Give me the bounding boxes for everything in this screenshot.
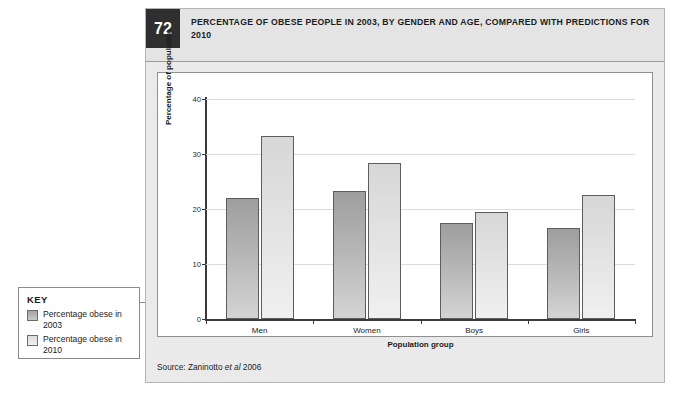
chart-plot-box: Percentage of population 010203040 Popul… [157,72,653,337]
key-title: KEY [27,294,132,305]
bar-men-2010 [261,136,294,319]
gridline [206,99,635,100]
x-category-label-men: Men [252,326,268,335]
y-tick-mark [202,99,206,100]
x-tick-mark [528,319,529,324]
bar-women-2010 [368,163,401,319]
x-tick-mark [421,319,422,324]
y-tick-label: 10 [193,260,201,269]
key-item-2010: Percentage obese in 2010 [27,334,132,356]
figure-number-badge: 72 [146,9,180,48]
bar-boys-2003 [440,223,473,319]
x-category-label-girls: Girls [573,326,589,335]
plot-area: 010203040 [206,99,635,319]
source-note: Source: Zaninotto et al 2006 [157,362,261,372]
source-suffix: 2006 [241,362,262,372]
x-category-label-boys: Boys [465,326,483,335]
x-axis-title: Population group [206,340,635,349]
y-tick-mark [202,154,206,155]
source-italic: et al [225,362,241,372]
figure-panel: 72 PERCENTAGE OF OBESE PEOPLE IN 2003, B… [145,8,665,383]
key-label-2003: Percentage obese in 2003 [43,309,132,331]
key-item-2003: Percentage obese in 2003 [27,309,132,331]
x-category-label-women: Women [353,326,380,335]
source-prefix: Source: Zaninotto [157,362,225,372]
y-tick-label: 30 [193,150,201,159]
y-tick-label: 0 [197,315,201,324]
y-axis-title: Percentage of population [164,17,173,137]
figure-title: PERCENTAGE OF OBESE PEOPLE IN 2003, BY G… [191,16,652,41]
y-tick-label: 20 [193,205,201,214]
figure-header: 72 PERCENTAGE OF OBESE PEOPLE IN 2003, B… [146,9,664,62]
y-tick-mark [202,264,206,265]
key-swatch-icon-2010 [27,335,38,346]
y-tick-label: 40 [193,95,201,104]
y-tick-mark [202,209,206,210]
bar-girls-2003 [547,228,580,319]
chart-canvas: Percentage of population 010203040 Popul… [158,73,652,336]
key-legend-box: KEY Percentage obese in 2003 Percentage … [18,287,140,359]
bar-boys-2010 [475,212,508,319]
bar-men-2003 [226,198,259,319]
x-tick-mark [206,319,207,324]
bar-girls-2010 [582,195,615,319]
key-swatch-icon-2003 [27,310,38,321]
key-label-2010: Percentage obese in 2010 [43,334,132,356]
x-tick-mark [313,319,314,324]
bar-women-2003 [333,191,366,319]
x-tick-mark [635,319,636,324]
